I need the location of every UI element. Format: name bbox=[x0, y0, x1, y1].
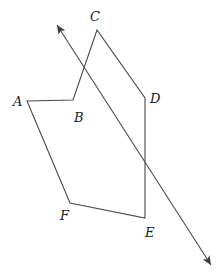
vertex-label-e: E bbox=[145, 226, 155, 239]
geometry-canvas bbox=[0, 0, 224, 272]
double-headed-arrow-line bbox=[57, 25, 211, 265]
vertex-label-b: B bbox=[74, 111, 84, 124]
geometry-figure: A B C D E F bbox=[0, 0, 224, 272]
hexagon-abcdef bbox=[27, 30, 145, 218]
vertex-label-a: A bbox=[13, 95, 22, 108]
vertex-label-f: F bbox=[60, 209, 69, 222]
vertex-label-c: C bbox=[90, 10, 100, 23]
vertex-label-d: D bbox=[150, 92, 160, 105]
